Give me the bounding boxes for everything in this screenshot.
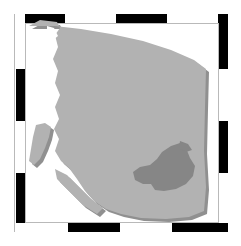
map-svg xyxy=(14,14,227,232)
map-land-layer xyxy=(29,20,206,219)
british-columbia-map xyxy=(14,14,227,232)
mainland-region xyxy=(29,20,206,219)
screenshot-root: British Columbia outline map British Col… xyxy=(0,0,241,246)
